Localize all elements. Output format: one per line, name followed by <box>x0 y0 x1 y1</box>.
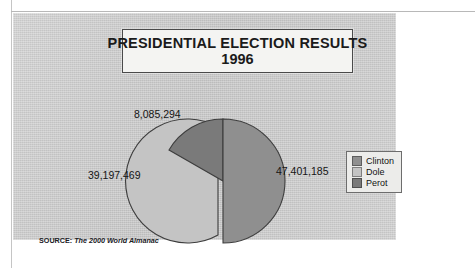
legend-label-dole: Dole <box>366 168 385 177</box>
legend-label-perot: Perot <box>366 179 388 188</box>
page-rule-horizontal <box>11 11 475 12</box>
legend-swatch-dole <box>352 167 362 177</box>
value-label-clinton: 47,401,185 <box>276 165 329 177</box>
legend-item-clinton[interactable]: Clinton <box>352 156 397 166</box>
chart-panel: PRESIDENTIAL ELECTION RESULTS 1996 8,085… <box>13 13 396 240</box>
source-note: SOURCE: The 2000 World Almanac <box>39 236 159 245</box>
source-prefix: SOURCE: <box>39 236 72 245</box>
page-rule-vertical <box>11 0 12 268</box>
legend-swatch-clinton <box>352 156 362 166</box>
pie-chart <box>26 26 409 253</box>
legend-item-perot[interactable]: Perot <box>352 178 397 188</box>
value-label-perot: 8,085,294 <box>134 108 181 120</box>
source-title: The 2000 World Almanac <box>74 236 159 245</box>
legend-item-dole[interactable]: Dole <box>352 167 397 177</box>
pie-chart-svg <box>26 26 409 253</box>
value-label-dole: 39,197,469 <box>88 169 141 181</box>
pie-slice-clinton[interactable] <box>223 119 285 243</box>
legend-label-clinton: Clinton <box>366 157 394 166</box>
legend-swatch-perot <box>352 178 362 188</box>
chart-legend: Clinton Dole Perot <box>346 151 402 193</box>
